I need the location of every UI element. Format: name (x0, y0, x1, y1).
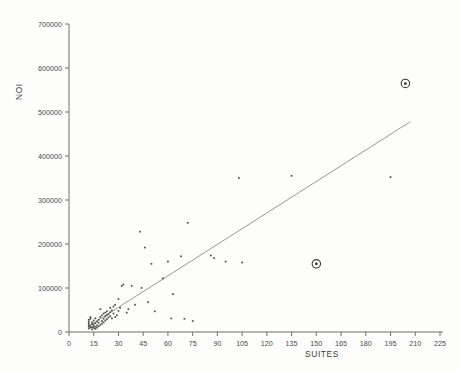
data-point (225, 261, 227, 263)
data-point (103, 318, 105, 320)
data-point (192, 320, 194, 322)
data-point (109, 311, 111, 313)
data-point (170, 318, 172, 320)
x-tick-label: 60 (164, 339, 172, 348)
y-axis-title: NOI (14, 83, 24, 100)
data-point (90, 316, 92, 318)
outlier-point (315, 262, 318, 265)
data-point (93, 324, 95, 326)
x-tick-label: 105 (236, 339, 248, 348)
data-point (109, 315, 111, 317)
y-tick-label: 500000 (38, 108, 62, 117)
data-point (154, 310, 156, 312)
data-point (88, 328, 90, 330)
x-tick-label: 210 (409, 339, 421, 348)
data-point (93, 325, 95, 327)
data-point (96, 327, 98, 329)
data-point (91, 321, 93, 323)
data-point (151, 263, 153, 265)
data-point (93, 327, 95, 329)
data-point (88, 326, 90, 328)
data-point (111, 310, 113, 312)
x-tick-group: 0153045607590105120135150165180195210225 (67, 332, 446, 348)
data-point (106, 310, 108, 312)
data-point (90, 318, 92, 320)
data-point (99, 324, 101, 326)
regression-line (88, 122, 410, 327)
y-tick-label: 400000 (38, 152, 62, 161)
y-tick-label: 200000 (38, 240, 62, 249)
x-tick-label: 0 (67, 339, 71, 348)
data-point (90, 327, 92, 329)
data-point (95, 322, 97, 324)
data-point (108, 317, 110, 319)
outlier-point (404, 82, 407, 85)
data-point (101, 323, 103, 325)
data-point (147, 301, 149, 303)
data-point (108, 313, 110, 315)
y-tick-label: 300000 (38, 196, 62, 205)
data-point (90, 325, 92, 327)
data-point (113, 313, 115, 315)
data-point (106, 318, 108, 320)
x-tick-label: 90 (213, 339, 221, 348)
data-point (96, 325, 98, 327)
data-point (121, 285, 123, 287)
data-point (109, 307, 111, 309)
x-axis-group: 0153045607590105120135150165180195210225… (67, 332, 446, 359)
x-tick-label: 15 (90, 339, 98, 348)
x-tick-label: 30 (114, 339, 122, 348)
data-point (139, 231, 141, 233)
data-point (123, 284, 125, 286)
data-point (99, 316, 101, 318)
data-point (91, 329, 93, 331)
data-points-group (88, 175, 391, 330)
data-point (98, 319, 100, 321)
data-point (101, 320, 103, 322)
data-point (91, 323, 93, 325)
data-point (118, 310, 120, 312)
data-point (162, 277, 164, 279)
regression-line-group (88, 122, 410, 327)
data-point (101, 314, 103, 316)
data-point (118, 298, 120, 300)
x-tick-label: 75 (189, 339, 197, 348)
data-point (98, 325, 100, 327)
data-point (134, 304, 136, 306)
x-tick-label: 120 (261, 339, 273, 348)
data-point (104, 312, 106, 314)
data-point (172, 293, 174, 295)
data-point (93, 320, 95, 322)
data-point (128, 308, 130, 310)
data-point (104, 320, 106, 322)
outlier-markers-group (312, 79, 409, 268)
y-axis-group: 0100000200000300000400000500000600000700… (14, 20, 69, 337)
y-tick-label: 700000 (38, 20, 62, 29)
x-tick-label: 165 (335, 339, 347, 348)
x-tick-label: 180 (360, 339, 372, 348)
data-point (103, 313, 105, 315)
data-point (113, 306, 115, 308)
data-point (187, 222, 189, 224)
data-point (131, 285, 133, 287)
data-point (106, 314, 108, 316)
data-point (96, 321, 98, 323)
data-point (88, 324, 90, 326)
data-point (88, 319, 90, 321)
data-point (116, 314, 118, 316)
x-tick-label: 150 (310, 339, 322, 348)
x-axis-title: SUITES (305, 349, 339, 359)
data-point (167, 261, 169, 263)
data-point (291, 175, 293, 177)
data-point (95, 318, 97, 320)
y-tick-label: 100000 (38, 284, 62, 293)
data-point (184, 318, 186, 320)
x-tick-label: 45 (139, 339, 147, 348)
data-point (99, 308, 101, 310)
y-tick-group: 0100000200000300000400000500000600000700… (38, 20, 69, 337)
data-point (88, 322, 90, 324)
data-point (241, 262, 243, 264)
y-tick-label: 0 (58, 328, 62, 337)
data-point (210, 255, 212, 257)
data-point (103, 321, 105, 323)
